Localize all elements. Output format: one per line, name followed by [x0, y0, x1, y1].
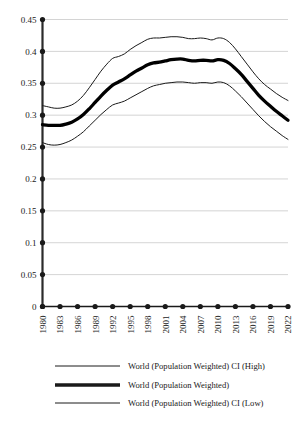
x-axis-tick-marker: [128, 304, 133, 309]
y-axis-tick-label: 0.35: [21, 78, 37, 88]
series-line: [43, 37, 289, 109]
x-axis-tick-label: 2001: [161, 316, 171, 334]
x-axis-tick-marker: [75, 304, 80, 309]
x-axis-tick-marker: [285, 304, 290, 309]
y-axis-tick-label: 0.25: [21, 142, 37, 152]
y-axis-tick-mark: [40, 17, 45, 22]
x-axis-tick-marker: [198, 304, 203, 309]
y-axis-tick-mark: [40, 272, 45, 277]
x-axis-tick-label: 1992: [108, 316, 118, 334]
chart-legend: World (Population Weighted) CI (High)Wor…: [55, 361, 265, 408]
x-axis-tick-marker: [163, 304, 168, 309]
legend-label-2: World (Population Weighted): [128, 380, 229, 390]
x-axis-tick-marker: [250, 304, 255, 309]
x-axis-tick-marker: [268, 304, 273, 309]
x-axis-tick-label: 2013: [231, 315, 241, 334]
data-series-group: [43, 37, 289, 146]
x-axis-tick-marker: [57, 304, 62, 309]
legend-label-1: World (Population Weighted) CI (High): [128, 361, 265, 371]
x-axis-tick-label: 2004: [178, 315, 188, 334]
x-axis-tick-label: 2019: [266, 315, 276, 334]
y-axis-tick-label: 0.1: [25, 238, 36, 248]
x-axis-tick-label: 1986: [73, 315, 83, 334]
x-axis-tick-labels: 1980198319861989199219951998200120042007…: [38, 315, 294, 334]
x-axis-tick-marker: [110, 304, 115, 309]
x-axis-tick-marker: [180, 304, 185, 309]
y-axis-tick-label: 0.15: [21, 206, 37, 216]
y-axis-tick-label: 0.3: [25, 110, 37, 120]
series-line: [43, 82, 289, 145]
x-axis-tick-label: 2010: [213, 315, 223, 334]
x-axis-tick-label: 1998: [143, 315, 153, 334]
y-axis-tick-label: 0: [32, 302, 37, 312]
y-axis-tick-label: 0.2: [25, 174, 36, 184]
y-axis-tick-mark: [40, 240, 45, 245]
x-axis-tick-label: 1989: [91, 315, 101, 334]
legend-label-3: World (Population Weighted) CI (Low): [128, 398, 264, 408]
x-axis-tick-label: 2007: [196, 315, 206, 334]
x-axis-tick-label: 2016: [248, 315, 258, 334]
y-axis-tick-label: 0.4: [25, 47, 37, 57]
y-axis-tick-mark: [40, 176, 45, 181]
x-axis-tick-marker: [145, 304, 150, 309]
y-axis-tick-mark: [40, 49, 45, 54]
y-axis-tick-mark: [40, 113, 45, 118]
x-axis-tick-label: 1980: [38, 315, 48, 334]
y-axis-tick-mark: [40, 208, 45, 213]
chart-container: 00.050.10.150.20.250.30.350.40.45 198019…: [0, 0, 306, 422]
x-axis-tick-marker: [215, 304, 220, 309]
gridlines: [43, 20, 289, 275]
x-axis-tick-label: 1983: [55, 315, 65, 334]
line-chart: 00.050.10.150.20.250.30.350.40.45 198019…: [0, 0, 306, 422]
y-axis-tick-label: 0.05: [21, 270, 37, 280]
x-axis-tick-label: 2022: [283, 316, 293, 334]
y-axis-tick-mark: [40, 81, 45, 86]
y-axis-tick-label: 0.45: [21, 15, 37, 25]
x-axis-tick-label: 1995: [126, 315, 136, 334]
x-axis-tick-marker: [40, 304, 45, 309]
x-axis-tick-marker: [233, 304, 238, 309]
y-axis-tick-mark: [40, 144, 45, 149]
x-axis-tick-marker: [93, 304, 98, 309]
x-axis-tick-markers: [40, 304, 291, 309]
y-axis-tick-labels: 00.050.10.150.20.250.30.350.40.45: [21, 15, 37, 312]
